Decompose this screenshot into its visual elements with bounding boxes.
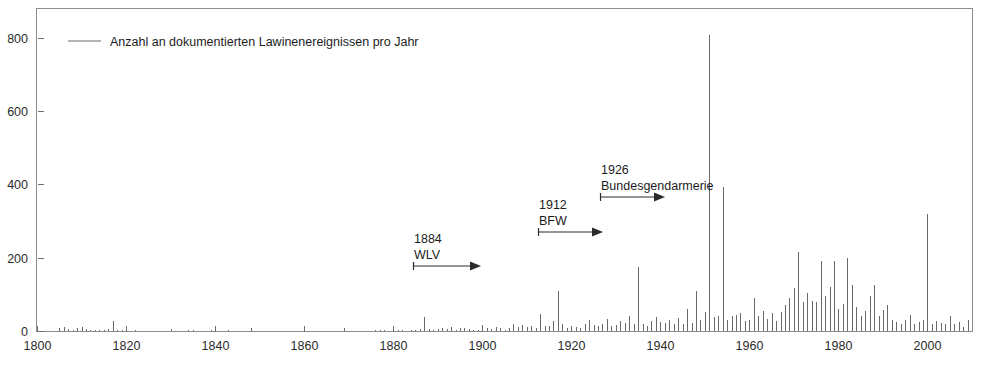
annotation-1912-org: BFW [539,214,567,228]
x-tick-label: 1920 [558,339,586,353]
x-tick-label: 1840 [202,339,230,353]
y-tick-label: 200 [7,252,28,266]
annotation-1926-year: 1926 [601,163,629,177]
y-tick-label: 800 [7,32,28,46]
x-tick-label: 1960 [736,339,764,353]
x-tick-label: 2000 [914,339,942,353]
chart-background [0,0,981,371]
y-tick-label: 400 [7,178,28,192]
annotation-1884-year: 1884 [414,232,442,246]
x-tick-label: 1980 [825,339,853,353]
chart-canvas: 0200400600800 18001820184018601880190019… [0,0,981,371]
x-tick-label: 1880 [380,339,408,353]
x-tick-label: 1860 [291,339,319,353]
annotation-1926-org: Bundesgendarmerie [601,179,714,193]
avalanche-events-chart: 0200400600800 18001820184018601880190019… [0,0,981,371]
annotation-1912-year: 1912 [539,198,567,212]
x-tick-label: 1940 [647,339,675,353]
annotation-1884-org: WLV [414,248,441,262]
x-tick-label: 1900 [469,339,497,353]
x-tick-label: 1820 [113,339,141,353]
legend: Anzahl an dokumentierten Lawinenereignis… [68,35,419,49]
legend-label: Anzahl an dokumentierten Lawinenereignis… [110,35,419,49]
x-tick-label: 1800 [24,339,52,353]
y-tick-label: 600 [7,105,28,119]
y-tick-label: 0 [21,325,28,339]
